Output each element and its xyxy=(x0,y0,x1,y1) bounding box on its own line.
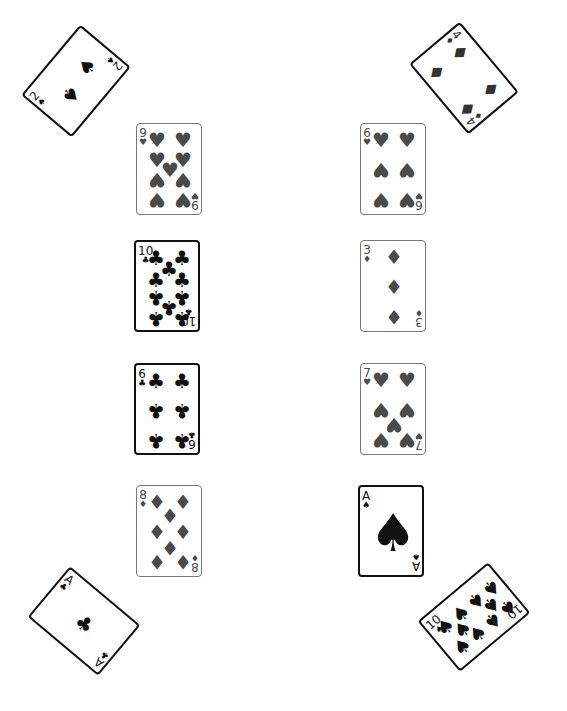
playing-card-4d[interactable]: 4♦4♦♦♦♦♦ xyxy=(409,22,519,135)
hearts-pip-icon: ♥ xyxy=(174,170,192,190)
card-index-top-left: 2♠ xyxy=(28,89,49,108)
playing-card-9h[interactable]: 9♥9♥♥♥♥♥♥♥♥♥♥ xyxy=(136,123,202,215)
diamonds-pip-icon: ♦ xyxy=(385,247,403,267)
hearts-pip-icon: ♥ xyxy=(372,370,390,390)
hearts-icon: ♥ xyxy=(363,138,371,147)
card-index-top-left: 6♥ xyxy=(363,127,371,147)
clubs-icon: ♣ xyxy=(99,649,111,661)
clubs-pip-icon: ♣ xyxy=(173,401,191,421)
card-index-top-left: 3♦ xyxy=(363,244,371,264)
hearts-pip-icon: ♥ xyxy=(398,430,416,450)
hearts-pip-icon: ♥ xyxy=(398,160,416,180)
diamonds-pip-icon: ♦ xyxy=(385,277,403,297)
clubs-pip-icon: ♣ xyxy=(173,309,191,329)
hearts-pip-icon: ♥ xyxy=(372,190,390,210)
hearts-pip-icon: ♥ xyxy=(148,190,166,210)
clubs-pip-icon: ♣ xyxy=(71,610,98,637)
playing-card-6c[interactable]: 6♣6♣♣♣♣♣♣♣ xyxy=(134,363,200,455)
spades-pip-icon: ♠ xyxy=(57,82,84,109)
card-index-top-left: 7♥ xyxy=(363,367,371,387)
hearts-pip-icon: ♥ xyxy=(148,130,166,150)
hearts-pip-icon: ♥ xyxy=(174,190,192,210)
hearts-pip-icon: ♥ xyxy=(372,430,390,450)
hearts-pip-icon: ♥ xyxy=(148,170,166,190)
spades-icon: ♠ xyxy=(36,96,48,108)
clubs-icon: ♣ xyxy=(138,379,146,388)
card-index-top-left: A♣ xyxy=(57,573,76,594)
card-index-bottom-right: 9♥ xyxy=(191,191,199,211)
card-index-bottom-right: A♣ xyxy=(92,649,111,670)
clubs-pip-icon: ♣ xyxy=(147,401,165,421)
hearts-pip-icon: ♥ xyxy=(174,130,192,150)
clubs-pip-icon: ♣ xyxy=(147,371,165,391)
playing-card-10s[interactable]: 10♠10♠♠♠♠♠♠♠♠♠♠♠ xyxy=(418,562,531,672)
clubs-pip-icon: ♣ xyxy=(147,431,165,451)
playing-card-2s[interactable]: 2♠2♠♠♠ xyxy=(21,25,131,138)
card-index-bottom-right: 7♥ xyxy=(415,431,423,451)
hearts-icon: ♥ xyxy=(363,378,371,387)
diamonds-icon: ♦ xyxy=(139,500,147,509)
hearts-pip-icon: ♥ xyxy=(372,130,390,150)
card-index-top-left: 8♦ xyxy=(139,489,147,509)
hearts-icon: ♥ xyxy=(139,138,147,147)
playing-card-7h[interactable]: 7♥7♥♥♥♥♥♥♥♥ xyxy=(360,363,426,455)
card-index-bottom-right: 2♠ xyxy=(104,54,125,73)
playing-card-8d[interactable]: 8♦8♦♦♦♦♦♦♦♦♦ xyxy=(136,485,202,577)
diamonds-pip-icon: ♦ xyxy=(174,552,192,572)
diamonds-pip-icon: ♦ xyxy=(477,76,504,103)
hearts-pip-icon: ♥ xyxy=(398,370,416,390)
hearts-pip-icon: ♥ xyxy=(372,160,390,180)
spades-pip-icon: ♠ xyxy=(370,507,417,559)
hearts-icon: ♥ xyxy=(415,431,423,440)
diamonds-pip-icon: ♦ xyxy=(423,59,450,86)
hearts-icon: ♥ xyxy=(415,191,423,200)
playing-card-6h[interactable]: 6♥6♥♥♥♥♥♥♥ xyxy=(360,123,426,215)
hearts-icon: ♥ xyxy=(191,191,199,200)
clubs-pip-icon: ♣ xyxy=(173,431,191,451)
card-index-bottom-right: 6♥ xyxy=(415,191,423,211)
playing-card-3d[interactable]: 3♦3♦♦♦♦ xyxy=(360,240,426,332)
card-index-top-left: 6♣ xyxy=(138,368,146,388)
hearts-pip-icon: ♥ xyxy=(398,190,416,210)
playing-card-ac[interactable]: A♣A♣♣ xyxy=(28,566,141,676)
diamonds-pip-icon: ♦ xyxy=(385,307,403,327)
card-index-bottom-right: 3♦ xyxy=(415,308,423,328)
card-index-bottom-right: 8♦ xyxy=(191,553,199,573)
clubs-pip-icon: ♣ xyxy=(147,309,165,329)
diamonds-icon: ♦ xyxy=(191,553,199,562)
card-index-top-left: 9♥ xyxy=(139,127,147,147)
clubs-icon: ♣ xyxy=(57,581,69,593)
playing-card-as[interactable]: A♠A♠♠ xyxy=(358,485,424,577)
spades-pip-icon: ♠ xyxy=(73,53,100,80)
playing-card-10c[interactable]: 10♣10♣♣♣♣♣♣♣♣♣♣♣ xyxy=(134,240,200,332)
diamonds-icon: ♦ xyxy=(363,255,371,264)
diamonds-pip-icon: ♦ xyxy=(148,552,166,572)
diamonds-icon: ♦ xyxy=(415,308,423,317)
hearts-pip-icon: ♥ xyxy=(398,130,416,150)
clubs-pip-icon: ♣ xyxy=(173,371,191,391)
